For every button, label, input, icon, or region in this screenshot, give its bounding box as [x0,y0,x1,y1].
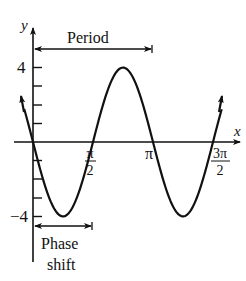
shift-label: shift [47,256,76,273]
x-axis-label: x [233,123,241,139]
x-tick-pi: π [145,145,153,162]
svg-text:3π: 3π [213,146,227,161]
svg-text:2: 2 [217,163,224,178]
x-tick-three-pi-half: 3π 2 [211,146,230,178]
curve-left-arrow [21,96,24,112]
sinusoid-graph: y x 4 −4 π 2 π 3π 2 Period Phase shift [0,0,246,281]
y-tick-label-neg4: −4 [10,207,29,226]
y-axis-label: y [19,17,28,33]
period-label: Period [67,29,109,46]
phase-label: Phase [41,235,78,252]
y-tick-label-4: 4 [17,58,26,77]
